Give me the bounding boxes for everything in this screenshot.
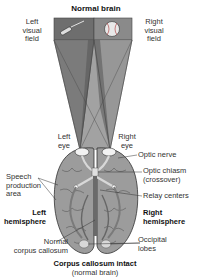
crossover-label: (crossover) xyxy=(143,176,181,185)
left-hemisphere-label: Left hemisphere xyxy=(2,209,46,226)
right-visual-field-label: Right visual field xyxy=(136,18,172,44)
page-title: Normal brain xyxy=(66,5,126,14)
left-eye-label: Left eye xyxy=(50,133,78,150)
speech-production-area-label: Speech production area xyxy=(6,173,41,199)
baseball-icon xyxy=(105,22,120,37)
left-visual-field-label: Left visual field xyxy=(14,18,50,44)
optic-nerve-label: Optic nerve xyxy=(138,151,176,160)
occipital-lobes-label: Occipital lobes xyxy=(138,236,167,253)
right-hemisphere-label: Right hemisphere xyxy=(143,209,185,226)
right-eye-label: Right eye xyxy=(113,133,141,150)
optic-chiasm-shape xyxy=(92,168,98,176)
normal-corpus-callosum-label: Normal corpus callosum xyxy=(8,238,68,255)
caption-sub: (normal brain) xyxy=(40,269,150,278)
left-visual-field-box xyxy=(54,18,94,40)
relay-centers-label: Relay centers xyxy=(143,192,189,201)
